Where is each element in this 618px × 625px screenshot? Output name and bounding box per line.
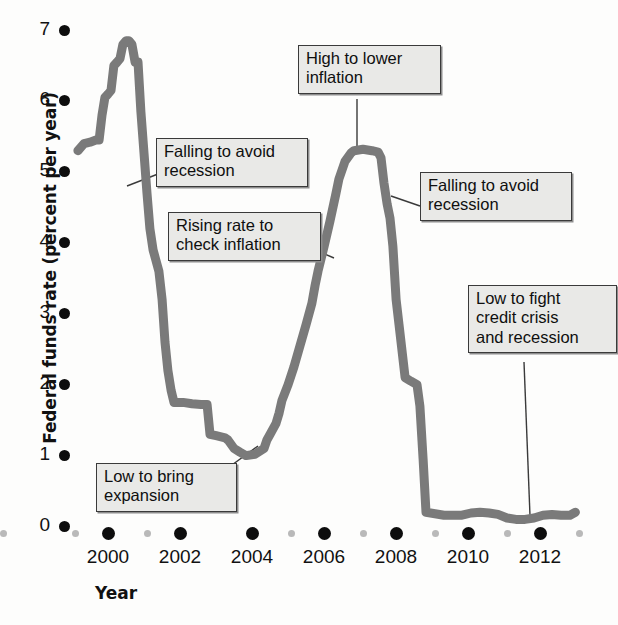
annotation-low-to-bring-expansion: Low to bring expansion bbox=[96, 463, 237, 512]
annotation-rising-rate-to-check-inflation: Rising rate to check inflation bbox=[168, 212, 321, 261]
chart-figure: Federal funds rate (percent per year) 7 … bbox=[0, 0, 618, 625]
leader-line-low-to-fight-credit-crisis bbox=[524, 362, 530, 516]
leader-line-falling-to-avoid-recession-2 bbox=[391, 196, 420, 206]
annotation-falling-to-avoid-recession-1: Falling to avoid recession bbox=[156, 138, 308, 187]
fed-funds-rate-line bbox=[78, 41, 576, 520]
annotation-falling-to-avoid-recession-2: Falling to avoid recession bbox=[420, 172, 572, 221]
annotation-low-to-fight-credit-crisis: Low to fight credit crisis and recession bbox=[468, 285, 617, 353]
annotation-high-to-lower-inflation: High to lower inflation bbox=[298, 45, 441, 94]
